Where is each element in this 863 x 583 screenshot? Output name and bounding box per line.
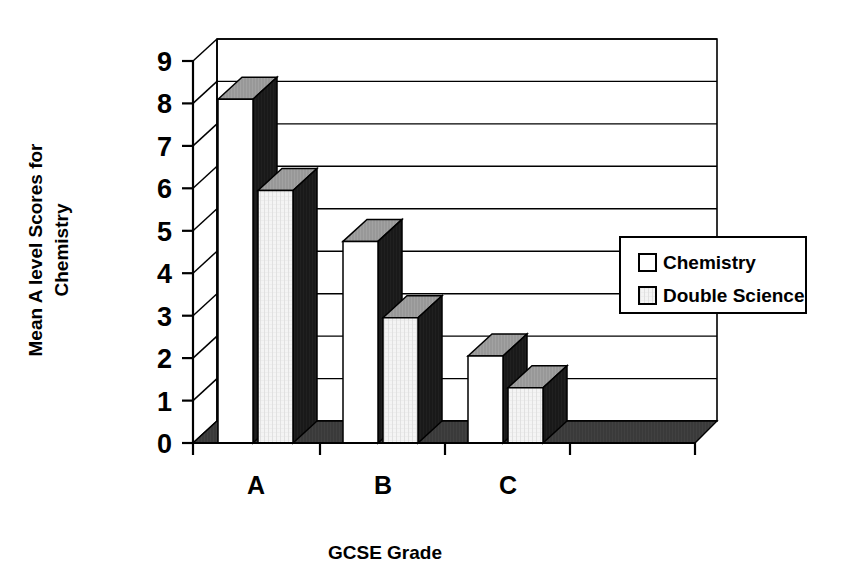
legend-swatch-double-science [639, 287, 656, 304]
y-tick-label: 9 [157, 47, 172, 77]
legend-item-double-science[interactable]: Double Science [639, 285, 805, 306]
y-tick-label: 2 [157, 344, 172, 374]
chart-container: Chemistry Double Science 9 8 7 6 5 4 3 2… [0, 0, 863, 583]
y-tick-label: 7 [157, 132, 172, 162]
legend-label-double-science: Double Science [663, 285, 805, 306]
bar-double-science-B [383, 296, 442, 443]
y-tick-label: 5 [157, 217, 172, 247]
y-tick-label: 6 [157, 174, 172, 204]
bar-chart-3d: Chemistry Double Science 9 8 7 6 5 4 3 2… [0, 0, 863, 583]
x-tick-label-c: C [499, 471, 517, 499]
y-axis-title-line2: Chemistry [51, 203, 72, 296]
y-axis-title-line1: Mean A level Scores for [25, 143, 46, 357]
x-tick-label-b: B [374, 471, 392, 499]
x-tick-label-a: A [247, 471, 265, 499]
y-tick-label: 3 [157, 302, 172, 332]
legend-item-chemistry[interactable]: Chemistry [639, 252, 756, 273]
y-tick-label: 1 [157, 387, 172, 417]
bar-double-science-A [258, 169, 317, 444]
legend-swatch-chemistry [639, 254, 656, 271]
x-axis-title: GCSE Grade [328, 542, 442, 563]
legend-label-chemistry: Chemistry [663, 252, 756, 273]
y-tick-label: 8 [157, 89, 172, 119]
x-axis-title-text: GCSE Grade [328, 542, 442, 563]
y-tick-label: 4 [157, 259, 172, 289]
legend[interactable]: Chemistry Double Science [620, 237, 806, 313]
y-tick-label: 0 [157, 429, 172, 459]
